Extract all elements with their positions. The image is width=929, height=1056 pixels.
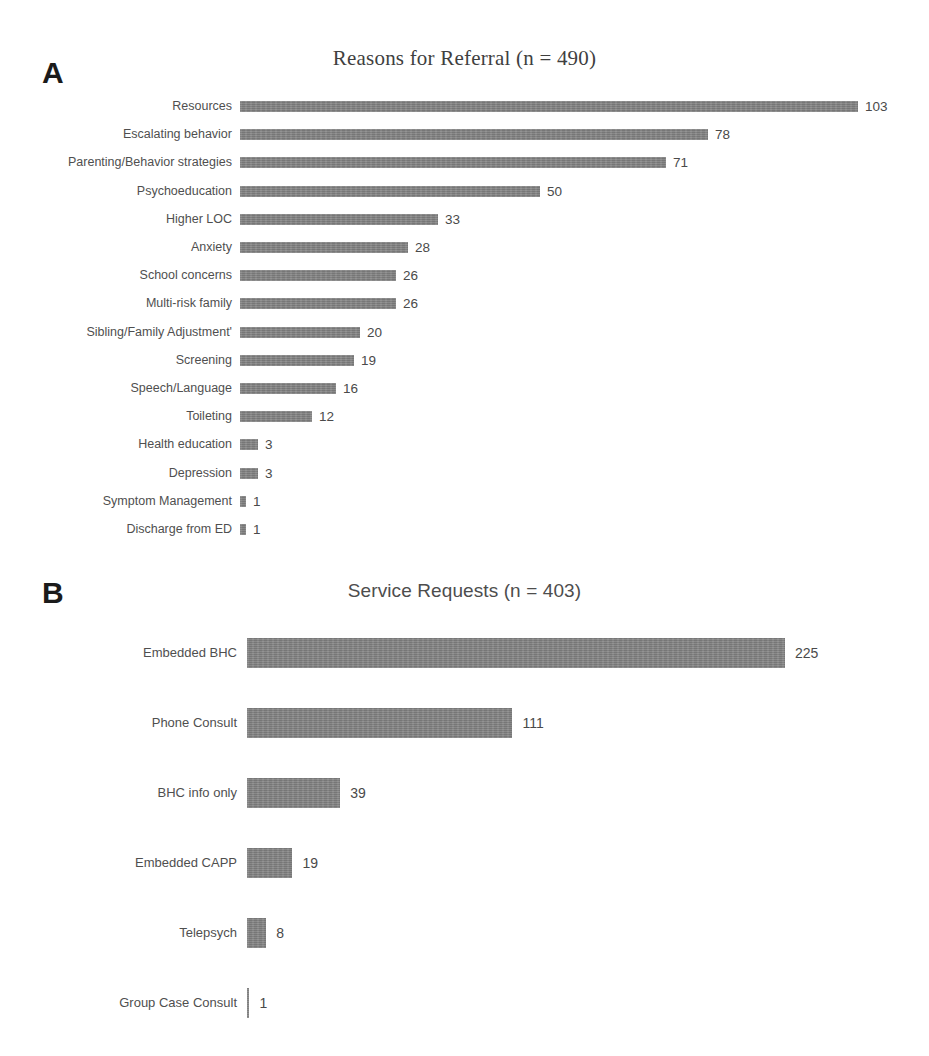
- bar-value-label: 3: [265, 466, 273, 481]
- category-label: Parenting/Behavior strategies: [0, 155, 232, 170]
- chart-b-plot-area: Embedded BHC225Phone Consult111BHC info …: [0, 628, 929, 1028]
- figure-panel-container: A Reasons for Referral (n = 490) Resourc…: [0, 0, 929, 1056]
- bar-value-label: 50: [547, 184, 562, 199]
- bar: [247, 778, 340, 808]
- category-label: Health education: [0, 437, 232, 452]
- bar: [240, 270, 396, 281]
- bar: [240, 214, 438, 225]
- bar-value-label: 225: [795, 645, 818, 661]
- bar: [247, 708, 512, 738]
- bar: [247, 918, 266, 948]
- category-label: Speech/Language: [0, 381, 232, 396]
- bar-value-label: 111: [522, 715, 543, 731]
- bar: [240, 439, 258, 450]
- bar-value-label: 1: [259, 995, 267, 1011]
- bar-value-label: 1: [253, 522, 261, 537]
- category-label: Anxiety: [0, 240, 232, 255]
- category-label: Embedded BHC: [0, 645, 237, 661]
- bar: [240, 383, 336, 394]
- bar: [240, 129, 708, 140]
- bar-value-label: 33: [445, 212, 460, 227]
- chart-a-title: Reasons for Referral (n = 490): [0, 46, 929, 70]
- category-label: Higher LOC: [0, 212, 232, 227]
- bar: [240, 242, 408, 253]
- category-label: Symptom Management: [0, 494, 232, 509]
- bar: [240, 468, 258, 479]
- bar-value-label: 28: [415, 240, 430, 255]
- bar-value-label: 39: [350, 785, 366, 801]
- bar-value-label: 16: [343, 381, 358, 396]
- bar: [240, 157, 666, 168]
- bar: [240, 496, 246, 507]
- bar: [247, 988, 249, 1018]
- bar: [247, 638, 785, 668]
- bar: [240, 298, 396, 309]
- bar-value-label: 19: [361, 353, 376, 368]
- bar-value-label: 26: [403, 268, 418, 283]
- bar-value-label: 78: [715, 127, 730, 142]
- bar: [240, 355, 354, 366]
- bar: [240, 101, 858, 112]
- bar-value-label: 26: [403, 296, 418, 311]
- category-label: Group Case Consult: [0, 995, 237, 1011]
- category-label: Sibling/Family Adjustment': [0, 325, 232, 340]
- category-label: Escalating behavior: [0, 127, 232, 142]
- category-label: Psychoeducation: [0, 184, 232, 199]
- bar-value-label: 71: [673, 155, 688, 170]
- category-label: BHC info only: [0, 785, 237, 801]
- bar-value-label: 1: [253, 494, 261, 509]
- category-label: Embedded CAPP: [0, 855, 237, 871]
- category-label: Discharge from ED: [0, 522, 232, 537]
- bar: [240, 524, 246, 535]
- category-label: Screening: [0, 353, 232, 368]
- category-label: Telepsych: [0, 925, 237, 941]
- bar: [247, 848, 292, 878]
- category-label: Resources: [0, 99, 232, 114]
- category-label: Depression: [0, 466, 232, 481]
- bar-value-label: 19: [302, 855, 318, 871]
- category-label: School concerns: [0, 268, 232, 283]
- bar: [240, 411, 312, 422]
- bar-value-label: 12: [319, 409, 334, 424]
- bar-value-label: 8: [276, 925, 284, 941]
- chart-b-title: Service Requests (n = 403): [0, 580, 929, 602]
- chart-a-plot-area: Resources103Escalating behavior78Parenti…: [0, 96, 929, 556]
- bar-value-label: 3: [265, 437, 273, 452]
- category-label: Phone Consult: [0, 715, 237, 731]
- bar-value-label: 20: [367, 325, 382, 340]
- category-label: Toileting: [0, 409, 232, 424]
- bar-value-label: 103: [865, 99, 888, 114]
- bar: [240, 186, 540, 197]
- bar: [240, 327, 360, 338]
- category-label: Multi-risk family: [0, 296, 232, 311]
